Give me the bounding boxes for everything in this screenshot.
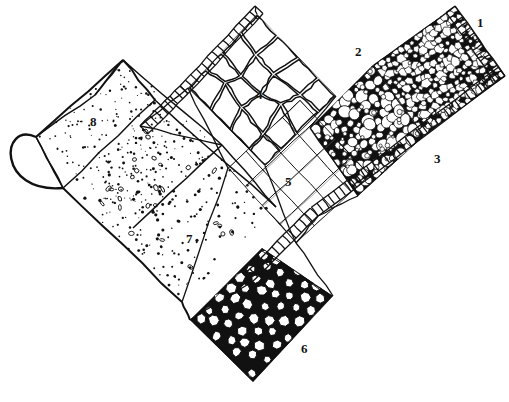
stipple-dot (132, 165, 134, 167)
filler-pebble (343, 132, 347, 136)
stipple-dot (171, 198, 173, 200)
stipple-dot (162, 254, 163, 255)
stipple-dot (194, 256, 196, 258)
stipple-dot (199, 158, 201, 160)
stipple-dot (156, 237, 159, 240)
gravel-ring (151, 156, 157, 161)
stipple-dot (178, 253, 180, 255)
stipple-dot (202, 157, 203, 158)
stipple-dot (177, 293, 179, 295)
stipple-dot (152, 141, 155, 144)
stipple-dot (115, 195, 116, 196)
stipple-dot (150, 147, 152, 149)
stipple-dot (167, 186, 169, 188)
stipple-dot (78, 164, 80, 166)
stipple-dot (81, 121, 82, 122)
sett-block (269, 328, 277, 336)
stipple-dot (120, 189, 122, 191)
filler-pebble (385, 143, 390, 148)
edging-rung (299, 219, 307, 227)
rounded-cobble (375, 132, 383, 139)
stipple-dot (80, 121, 81, 122)
filler-pebble (379, 144, 382, 147)
stipple-dot (89, 93, 91, 95)
edging-rung (294, 225, 302, 233)
stipple-dot (114, 202, 116, 204)
stipple-dot (164, 145, 166, 147)
stipple-dot (162, 196, 164, 198)
stipple-dot (204, 136, 205, 137)
stipple-dot (159, 192, 162, 195)
stipple-dot (109, 211, 110, 212)
stipple-dot (161, 203, 164, 206)
filler-pebble (381, 94, 386, 99)
stipple-dot (199, 208, 202, 211)
stipple-dot (121, 147, 122, 148)
edging-rung (272, 247, 280, 255)
stipple-dot (168, 284, 171, 287)
stipple-dot (159, 169, 160, 170)
stipple-dot (146, 154, 148, 156)
stipple-dot (194, 193, 197, 196)
callout-label-1: 1 (477, 16, 484, 29)
stipple-dot (165, 141, 167, 143)
stipple-dot (101, 134, 103, 136)
stipple-dot (105, 180, 107, 182)
stipple-dot (173, 158, 175, 160)
stipple-dot (96, 166, 98, 168)
stipple-dot (135, 238, 138, 241)
stipple-dot (201, 206, 203, 208)
stipple-dot (66, 162, 68, 164)
stipple-dot (115, 109, 116, 110)
stipple-dot (129, 118, 131, 120)
stipple-dot (203, 178, 205, 180)
stipple-dot (236, 205, 239, 208)
stipple-dot (93, 146, 95, 148)
callout-label-5: 5 (285, 175, 292, 188)
sett-block (254, 340, 264, 351)
stipple-dot (98, 138, 100, 140)
stipple-dot (83, 197, 86, 200)
stipple-dot (157, 252, 160, 255)
stipple-dot (126, 174, 128, 176)
stipple-dot (125, 171, 126, 172)
edging-rung (333, 191, 340, 200)
stipple-dot (155, 118, 157, 120)
stipple-dot (82, 177, 84, 179)
stipple-dot (147, 182, 148, 183)
gravel-ring (130, 175, 135, 180)
stipple-dot (234, 202, 236, 204)
figure-canvas: 12345678 (0, 0, 509, 402)
crushed-stone (407, 49, 413, 53)
stipple-dot (141, 148, 142, 149)
gravel-ring (129, 231, 135, 235)
stipple-dot (112, 201, 114, 203)
stipple-dot (216, 192, 218, 194)
stipple-dot (166, 274, 168, 276)
stipple-dot (119, 176, 121, 178)
crushed-stone (461, 71, 466, 75)
stipple-dot (159, 274, 161, 276)
stipple-dot (175, 195, 177, 197)
stipple-dot (70, 135, 72, 137)
stipple-dot (142, 248, 144, 250)
gravel-ring (100, 201, 105, 207)
stipple-dot (246, 190, 249, 193)
stipple-dot (174, 148, 175, 149)
stipple-dot (93, 188, 94, 189)
stipple-dot (177, 219, 180, 222)
stipple-dot (186, 121, 187, 122)
stipple-dot (135, 137, 138, 140)
stipple-dot (173, 275, 176, 278)
stipple-dot (49, 138, 50, 139)
stipple-dot (115, 189, 116, 190)
rounded-end-cap (11, 135, 63, 189)
region-sett-block-paving (190, 248, 333, 382)
stipple-dot (121, 88, 123, 90)
filler-pebble (341, 138, 344, 141)
stipple-dot (186, 200, 189, 203)
stipple-dot (178, 278, 180, 280)
stipple-dot (141, 157, 143, 159)
gravel-ring (218, 224, 222, 227)
stipple-dot (99, 108, 101, 110)
